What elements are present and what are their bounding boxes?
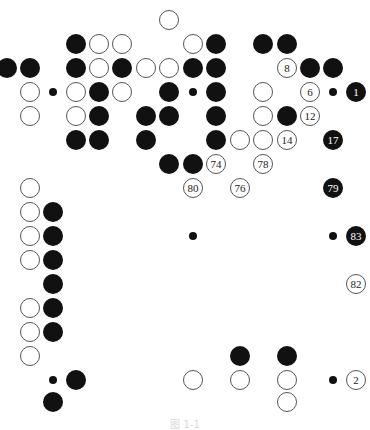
- black-stone: [66, 130, 86, 150]
- white-stone: [20, 322, 40, 342]
- black-stone: [206, 82, 226, 102]
- black-stone-79: 79: [323, 178, 343, 198]
- black-stone: [159, 154, 179, 174]
- black-stone: [136, 106, 156, 126]
- white-stone: [253, 106, 273, 126]
- star-point-dot: [189, 88, 197, 96]
- black-stone: [253, 34, 273, 54]
- black-stone: [300, 58, 320, 78]
- black-stone: [183, 154, 203, 174]
- white-stone: [20, 298, 40, 318]
- white-stone: [20, 106, 40, 126]
- figure-caption: 图 1-1: [0, 416, 370, 430]
- black-stone: [43, 202, 63, 222]
- black-stone: [183, 58, 203, 78]
- star-point-dot: [329, 376, 337, 384]
- white-stone: [253, 130, 273, 150]
- white-stone-6: 6: [300, 82, 320, 102]
- black-stone: [43, 298, 63, 318]
- black-stone: [43, 274, 63, 294]
- black-stone: [206, 58, 226, 78]
- black-stone-17: 17: [323, 130, 343, 150]
- black-stone: [323, 58, 343, 78]
- white-stone-78: 78: [253, 154, 273, 174]
- white-stone-2: 2: [346, 370, 366, 390]
- black-stone: [43, 250, 63, 270]
- white-stone: [159, 58, 179, 78]
- white-stone: [183, 370, 203, 390]
- white-stone: [230, 370, 250, 390]
- star-point-dot: [329, 88, 337, 96]
- black-stone: [43, 392, 63, 412]
- white-stone: [136, 58, 156, 78]
- black-stone: [136, 130, 156, 150]
- black-stone: [89, 106, 109, 126]
- black-stone: [89, 130, 109, 150]
- white-stone-8: 8: [277, 58, 297, 78]
- black-stone: [66, 58, 86, 78]
- white-stone: [20, 250, 40, 270]
- star-point-dot: [49, 88, 57, 96]
- white-stone-82: 82: [346, 274, 366, 294]
- white-stone: [20, 178, 40, 198]
- white-stone: [277, 370, 297, 390]
- white-stone: [230, 130, 250, 150]
- white-stone: [112, 82, 132, 102]
- go-board-diagram: 861121417747880767983822: [0, 0, 370, 430]
- white-stone: [277, 392, 297, 412]
- white-stone: [89, 58, 109, 78]
- black-stone: [0, 58, 17, 78]
- white-stone-14: 14: [277, 130, 297, 150]
- white-stone: [89, 34, 109, 54]
- white-stone: [183, 34, 203, 54]
- black-stone: [206, 34, 226, 54]
- black-stone: [112, 58, 132, 78]
- black-stone: [277, 346, 297, 366]
- black-stone: [206, 106, 226, 126]
- black-stone-83: 83: [346, 226, 366, 246]
- white-stone: [159, 10, 179, 30]
- white-stone-12: 12: [300, 106, 320, 126]
- black-stone: [206, 130, 226, 150]
- star-point-dot: [189, 232, 197, 240]
- black-stone: [277, 34, 297, 54]
- star-point-dot: [329, 232, 337, 240]
- white-stone: [112, 34, 132, 54]
- black-stone: [43, 322, 63, 342]
- black-stone: [277, 106, 297, 126]
- black-stone: [89, 82, 109, 102]
- black-stone: [20, 58, 40, 78]
- black-stone: [66, 370, 86, 390]
- white-stone: [20, 202, 40, 222]
- black-stone: [159, 82, 179, 102]
- white-stone: [66, 82, 86, 102]
- white-stone-76: 76: [230, 178, 250, 198]
- white-stone: [20, 346, 40, 366]
- black-stone: [66, 34, 86, 54]
- white-stone-80: 80: [183, 178, 203, 198]
- white-stone: [66, 106, 86, 126]
- black-stone: [159, 106, 179, 126]
- black-stone-1: 1: [346, 82, 366, 102]
- white-stone: [20, 226, 40, 246]
- black-stone: [43, 226, 63, 246]
- star-point-dot: [49, 376, 57, 384]
- black-stone: [230, 346, 250, 366]
- white-stone: [20, 82, 40, 102]
- white-stone-74: 74: [206, 154, 226, 174]
- white-stone: [253, 82, 273, 102]
